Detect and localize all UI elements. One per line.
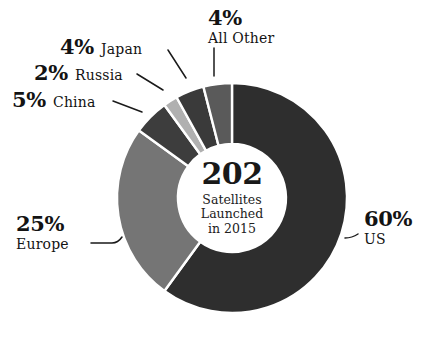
leader-line-china <box>113 101 142 112</box>
callout-russia-name: Russia <box>75 68 123 82</box>
callout-us-percent: 60% <box>364 206 412 231</box>
callout-china-percent: 5% <box>12 89 46 110</box>
callout-russia: 2% Russia <box>34 62 123 83</box>
callout-japan: 4% Japan <box>60 36 142 57</box>
callout-japan-name: Japan <box>101 42 142 56</box>
callout-all-other-percent: 4% <box>208 5 242 30</box>
leader-line-russia <box>137 74 163 90</box>
callout-china-name: China <box>53 95 96 109</box>
callout-all-other: 4% All Other <box>208 7 274 45</box>
callout-all-other-name: All Other <box>208 31 274 45</box>
callout-russia-percent: 2% <box>34 62 68 83</box>
callout-china: 5% China <box>12 89 96 110</box>
callout-europe-percent: 25% <box>16 211 64 236</box>
donut-chart-page: 202 Satellites Launched in 2015 4% Japan… <box>0 0 433 343</box>
donut-slice-group <box>117 83 347 313</box>
callout-us: 60% US <box>364 208 412 246</box>
callout-japan-percent: 4% <box>60 36 94 57</box>
callout-europe: 25% Europe <box>16 213 69 251</box>
leader-line-europe <box>91 237 122 243</box>
leader-line-us <box>345 234 358 238</box>
callout-europe-name: Europe <box>16 237 69 251</box>
callout-us-name: US <box>364 232 412 246</box>
leader-line-japan <box>168 50 186 78</box>
